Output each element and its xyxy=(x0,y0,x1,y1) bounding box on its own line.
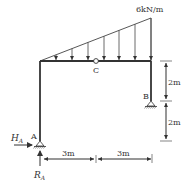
point-a-label: A xyxy=(30,132,37,141)
reaction-ha-symbol: H xyxy=(10,133,19,143)
reaction-ra-label: RA xyxy=(33,170,46,181)
reaction-ha-subscript: A xyxy=(18,137,24,144)
dim-horizontal-left: 3m xyxy=(62,149,75,158)
pin-support-a-icon xyxy=(34,141,47,149)
reaction-ra-subscript: A xyxy=(40,174,46,181)
load-outline xyxy=(40,18,151,61)
point-b-label: B xyxy=(143,92,149,101)
dim-vertical-upper: 2m xyxy=(168,78,181,87)
reaction-ha-label: HA xyxy=(10,133,24,144)
distributed-load xyxy=(40,18,151,61)
vertical-dimension xyxy=(160,61,172,141)
horizontal-dimension xyxy=(44,154,152,163)
point-c-label: C xyxy=(93,66,99,75)
pin-support-b-icon xyxy=(145,101,158,109)
hinge-c-icon xyxy=(94,59,99,64)
dim-vertical-lower: 2m xyxy=(168,118,181,127)
dim-horizontal-right: 3m xyxy=(117,149,130,158)
frame-diagram: 6kN/m C B A HA RA 3m 3m xyxy=(0,0,184,187)
load-label: 6kN/m xyxy=(136,5,164,14)
